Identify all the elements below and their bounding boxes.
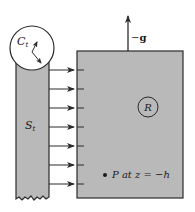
gravity-label: −g [131,32,146,43]
point-p-label: P at z = −h [111,169,170,180]
point-p-dot [103,173,107,177]
circle-c [10,26,54,70]
region-r-label: R [143,102,152,113]
diagram: Ct St R −g P at z = −h [0,0,195,212]
